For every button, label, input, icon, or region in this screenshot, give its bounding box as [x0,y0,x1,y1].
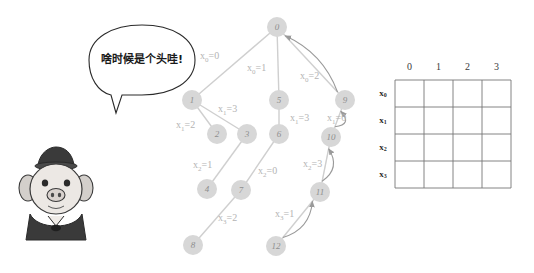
grid-cell-r1-c1[interactable] [424,107,453,134]
grid-cell-hit-r0-c3[interactable] [482,80,511,107]
grid-cell-r2-c2[interactable] [453,134,482,161]
grid-cell-r1-c2[interactable] [453,107,482,134]
grid-cell-r1-c0[interactable] [395,107,424,134]
grid-column-header-2: 2 [465,61,470,72]
grid-row-header-x3: x3 [379,169,387,180]
grid-cell-hit-r1-c3[interactable] [482,107,511,134]
grid-column-header-1: 1 [436,61,441,72]
grid-cell-r3-c2[interactable] [453,161,482,188]
grid-row-header-x1: x1 [379,115,387,126]
grid-cell-hit-r3-c1[interactable] [424,161,453,188]
grid-cell-hit-r1-c0[interactable] [395,107,424,134]
figure-canvas: 啥时候是个头哇! [0,0,534,273]
grid-cell-r3-c1[interactable] [424,161,453,188]
grid-cell-hit-r2-c2[interactable] [453,134,482,161]
grid-cell-hit-r2-c1[interactable] [424,134,453,161]
grid-cell-r2-c0[interactable] [395,134,424,161]
grid-cell-hit-r0-c2[interactable] [453,80,482,107]
assignment-table: 0123x0x1x2x3 [0,0,534,273]
grid-cell-hit-r3-c3[interactable] [482,161,511,188]
grid-cell-hit-r0-c1[interactable] [424,80,453,107]
grid-cell-hit-r0-c0[interactable] [395,80,424,107]
grid-cell-r1-c3[interactable] [482,107,511,134]
grid-cell-hit-r1-c2[interactable] [453,107,482,134]
grid-cell-r0-c1[interactable] [424,80,453,107]
grid-cell-hit-r3-c0[interactable] [395,161,424,188]
grid-cell-r2-c1[interactable] [424,134,453,161]
grid-cell-r0-c3[interactable] [482,80,511,107]
grid-cell-hit-r1-c1[interactable] [424,107,453,134]
grid-row-header-x0: x0 [379,88,387,99]
grid-cell-r2-c3[interactable] [482,134,511,161]
grid-row-header-x2: x2 [379,142,387,153]
grid-cell-r0-c2[interactable] [453,80,482,107]
grid-cell-hit-r3-c2[interactable] [453,161,482,188]
grid-cell-r3-c3[interactable] [482,161,511,188]
grid-cell-r3-c0[interactable] [395,161,424,188]
grid-cells [395,80,511,188]
grid-column-header-0: 0 [407,61,412,72]
grid-cell-hit-r2-c0[interactable] [395,134,424,161]
grid-column-header-3: 3 [494,61,499,72]
grid-cell-hit-r2-c3[interactable] [482,134,511,161]
grid-cell-r0-c0[interactable] [395,80,424,107]
